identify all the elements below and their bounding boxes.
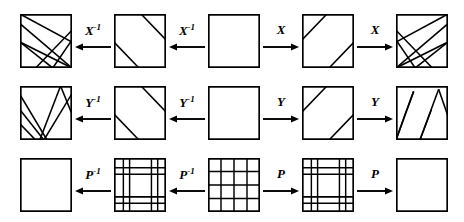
square-p-5: [396, 158, 448, 212]
diagram-row-x: X-1X-1XX: [0, 6, 464, 76]
arrow-y-fwd-1-shaft-right-arrow-icon: [263, 114, 299, 124]
square-x-4: [302, 14, 354, 68]
transformation-diagram: X-1X-1XXY-1Y-1YYP-1P-1PP: [0, 0, 464, 222]
arrow-x-fwd-2-shaft-right-arrow-icon: [357, 42, 393, 52]
arrow-x-inv-2-shaft-left-arrow-icon: [169, 42, 205, 52]
arrow-y-fwd-2-label: Y: [354, 94, 396, 110]
arrow-y-inv-2-shaft-left-arrow-icon: [169, 114, 205, 124]
arrow-x-fwd-1: X: [260, 14, 302, 68]
arrow-y-inv-2-label: Y-1: [166, 94, 208, 111]
square-p-2: [114, 158, 166, 212]
arrow-x-inv-1-label: X-1: [72, 22, 114, 39]
arrow-x-fwd-1-label: X: [260, 22, 302, 38]
arrow-y-fwd-2: Y: [354, 86, 396, 140]
arrow-y-inv-1-shaft-left-arrow-icon: [75, 114, 111, 124]
arrow-x-inv-1: X-1: [72, 14, 114, 68]
square-x-1: [20, 14, 72, 68]
arrow-p-inv-2-label: P-1: [166, 166, 208, 183]
arrow-x-fwd-1-shaft-right-arrow-icon: [263, 42, 299, 52]
arrow-y-inv-1: Y-1: [72, 86, 114, 140]
arrow-y-inv-1-superscript: -1: [93, 94, 101, 104]
arrow-p-inv-2-superscript: -1: [187, 166, 195, 176]
arrow-p-fwd-2-label: P: [354, 166, 396, 182]
arrow-p-inv-1: P-1: [72, 158, 114, 212]
arrow-x-inv-2: X-1: [166, 14, 208, 68]
arrow-p-fwd-2: P: [354, 158, 396, 212]
arrow-x-fwd-2-label: X: [354, 22, 396, 38]
arrow-y-inv-2: Y-1: [166, 86, 208, 140]
square-p-1: [20, 158, 72, 212]
arrow-p-inv-2: P-1: [166, 158, 208, 212]
arrow-p-fwd-1: P: [260, 158, 302, 212]
arrow-y-fwd-1: Y: [260, 86, 302, 140]
arrow-y-fwd-1-label: Y: [260, 94, 302, 110]
square-p-3: [208, 158, 260, 212]
arrow-y-inv-2-superscript: -1: [187, 94, 195, 104]
arrow-p-inv-1-label: P-1: [72, 166, 114, 183]
square-y-5: [396, 86, 448, 140]
arrow-p-inv-1-shaft-left-arrow-icon: [75, 186, 111, 196]
square-x-5: [396, 14, 448, 68]
arrow-x-inv-1-shaft-left-arrow-icon: [75, 42, 111, 52]
square-x-2: [114, 14, 166, 68]
arrow-y-inv-1-label: Y-1: [72, 94, 114, 111]
arrow-x-inv-2-superscript: -1: [188, 22, 196, 32]
diagram-row-y: Y-1Y-1YY: [0, 78, 464, 148]
square-y-3: [208, 86, 260, 140]
square-p-4: [302, 158, 354, 212]
arrow-p-fwd-1-shaft-right-arrow-icon: [263, 186, 299, 196]
arrow-p-inv-2-shaft-left-arrow-icon: [169, 186, 205, 196]
square-y-1: [20, 86, 72, 140]
square-y-2: [114, 86, 166, 140]
arrow-x-inv-2-label: X-1: [166, 22, 208, 39]
square-x-3: [208, 14, 260, 68]
arrow-x-inv-1-superscript: -1: [94, 22, 102, 32]
arrow-p-fwd-1-label: P: [260, 166, 302, 182]
arrow-p-inv-1-superscript: -1: [93, 166, 101, 176]
arrow-p-fwd-2-shaft-right-arrow-icon: [357, 186, 393, 196]
square-y-4: [302, 86, 354, 140]
arrow-y-fwd-2-shaft-right-arrow-icon: [357, 114, 393, 124]
arrow-x-fwd-2: X: [354, 14, 396, 68]
diagram-row-p: P-1P-1PP: [0, 150, 464, 220]
